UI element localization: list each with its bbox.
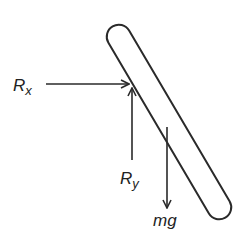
- rx-label: Rx: [13, 76, 32, 98]
- free-body-diagram: Rx Ry mg: [0, 0, 241, 243]
- rod: [102, 20, 235, 223]
- ry-label: Ry: [120, 169, 140, 191]
- mg-label: mg: [153, 211, 177, 230]
